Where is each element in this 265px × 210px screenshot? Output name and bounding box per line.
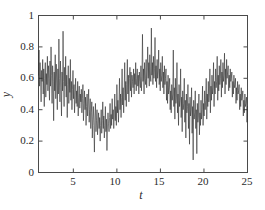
ytick-label-1: 1 (12, 9, 34, 21)
xtick-label-25: 25 (234, 175, 260, 187)
ytick-label-0p8: 0.8 (6, 40, 34, 52)
plot-canvas (0, 0, 265, 210)
xtick-label-15: 15 (146, 175, 172, 187)
xtick-label-5: 5 (60, 175, 86, 187)
chart-figure: 1 0.8 0.6 0.4 0.2 0 5 10 15 20 25 y t (0, 0, 265, 210)
ytick-label-0p2: 0.2 (6, 134, 34, 146)
xtick-label-10: 10 (102, 175, 128, 187)
x-axis-title: t (134, 188, 148, 203)
y-axis-title: y (0, 84, 14, 106)
ytick-label-0p6: 0.6 (6, 71, 34, 83)
ytick-label-0: 0 (12, 166, 34, 178)
xtick-label-20: 20 (190, 175, 216, 187)
plot-frame (39, 16, 248, 173)
